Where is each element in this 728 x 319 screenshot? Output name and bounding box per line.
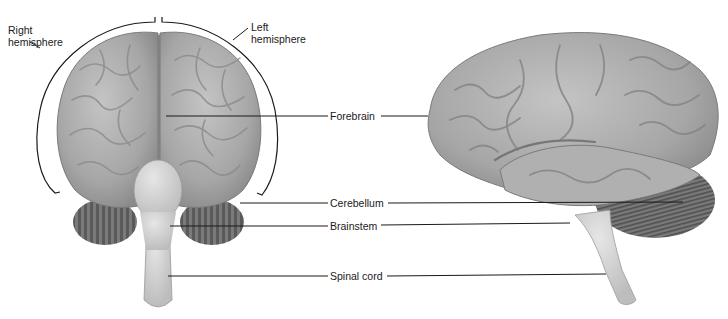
left-hemisphere-label-line1: Left xyxy=(251,21,306,33)
cerebellum-label: Cerebellum xyxy=(328,197,386,209)
forebrain-label: Forebrain xyxy=(328,110,377,122)
brainstem-label: Brainstem xyxy=(328,220,379,232)
right-hemisphere-label-line1: Right xyxy=(8,24,63,36)
left-hemisphere-label: Left hemisphere xyxy=(251,21,306,45)
front-view-brain xyxy=(57,32,261,307)
spinal-cord-label: Spinal cord xyxy=(328,270,385,282)
side-view-brain xyxy=(428,33,718,305)
spinal-cord-leader-right xyxy=(387,274,606,276)
left-hemisphere-leader xyxy=(233,28,248,40)
left-hemisphere-label-line2: hemisphere xyxy=(251,33,306,45)
right-hemisphere-label: Right hemisphere xyxy=(8,24,63,48)
right-hemisphere-label-line2: hemisphere xyxy=(8,36,63,48)
brainstem-leader-right xyxy=(381,223,570,225)
